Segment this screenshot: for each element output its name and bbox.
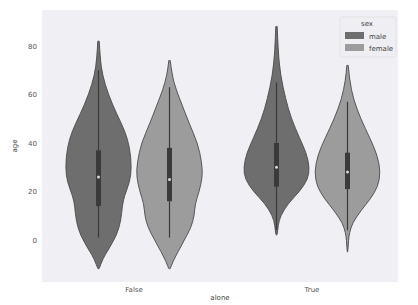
violin-chart: 020406080 FalseTrue alone age sex male f… [0,0,418,305]
y-tick-label: 60 [28,91,37,99]
y-tick-label: 0 [33,237,37,245]
y-tick-label: 20 [28,188,37,196]
iqr-box [274,143,279,187]
iqr-box [167,148,172,201]
legend-title: sex [361,20,373,28]
y-axis-ticks: 020406080 [28,43,37,245]
median-dot [275,166,278,169]
legend-label-female: female [369,45,393,53]
x-axis-label: alone [210,294,229,302]
x-tick-label: True [304,286,320,294]
median-dot [97,175,100,178]
x-tick-label: False [125,286,143,294]
y-axis-label: age [11,139,19,152]
legend-swatch-male [345,32,364,39]
x-axis-ticks: FalseTrue [125,286,319,294]
y-tick-label: 80 [28,43,37,51]
median-dot [168,178,171,181]
legend: sex male female [340,17,396,57]
legend-swatch-female [345,44,364,51]
median-dot [346,171,349,174]
y-tick-label: 40 [28,140,37,148]
legend-label-male: male [369,33,386,41]
